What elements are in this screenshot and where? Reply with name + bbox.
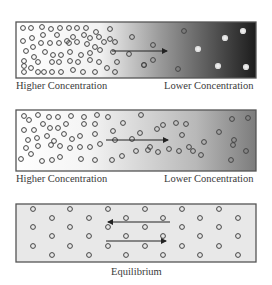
container-box: [16, 204, 256, 262]
equilibrium-label: Equilibrium: [111, 266, 162, 277]
lower-concentration-label-middle: Lower Concentration: [164, 173, 254, 184]
panel-equilibrium: [16, 204, 256, 262]
higher-concentration-label-middle: Higher Concentration: [16, 173, 107, 184]
particle-icon: [244, 65, 249, 70]
particle-icon: [223, 36, 228, 41]
panel-diffusion-mid: [16, 110, 256, 171]
diffusion-diagram: [0, 0, 272, 285]
lower-concentration-label-top: Lower Concentration: [164, 80, 254, 91]
particle-icon: [241, 29, 246, 34]
particle-icon: [216, 64, 221, 69]
higher-concentration-label-top: Higher Concentration: [16, 80, 107, 91]
particle-icon: [196, 47, 201, 52]
panel-diffusion-start: [16, 22, 256, 78]
